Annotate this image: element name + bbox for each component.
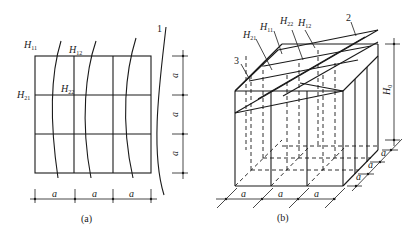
dim-a-right-3: a — [169, 151, 180, 156]
dim-a-bottom-2: a — [92, 188, 97, 199]
dim-b-bottom-1: a — [241, 188, 246, 199]
label-b-H0: H0 — [381, 85, 393, 96]
dim-b-depth-2: a — [368, 159, 373, 170]
label-b-H21: H21 — [242, 29, 256, 41]
dim-b-depth-1: a — [356, 171, 361, 182]
callout-3: 3 — [234, 55, 239, 66]
dim-a-right-2: a — [169, 112, 180, 117]
dim-a-bottom-1: a — [52, 188, 57, 199]
panel-a: H11 H12 H21 H22 1 a a a — [16, 23, 188, 225]
panel-a-right-dimension: a a a — [169, 50, 188, 179]
callout-2: 2 — [346, 12, 351, 23]
dim-b-depth-3: a — [381, 147, 386, 158]
dim-a-bottom-3: a — [129, 188, 134, 199]
dim-b-bottom-3: a — [314, 188, 319, 199]
panel-b-height-dimension: H0 — [381, 38, 400, 146]
panel-b: H21 H11 H22 H12 2 3 H0 a a a — [216, 12, 402, 224]
figure-canvas: H11 H12 H21 H22 1 a a a — [0, 0, 417, 239]
panel-b-bottom-dimension: a a a — [216, 188, 345, 208]
panel-a-bottom-dimension: a a a — [30, 188, 157, 203]
callout-1: 1 — [157, 23, 162, 34]
label-a-H11: H11 — [23, 39, 37, 51]
label-a-H22: H22 — [60, 83, 74, 95]
label-b-H11: H11 — [259, 21, 273, 33]
label-a-H12: H12 — [68, 44, 82, 56]
label-b-H12: H12 — [297, 17, 311, 29]
caption-a: (a) — [81, 213, 92, 225]
label-a-H21: H21 — [16, 89, 30, 101]
label-b-H22: H22 — [279, 15, 293, 27]
dim-b-bottom-2: a — [278, 188, 283, 199]
caption-b: (b) — [277, 212, 289, 224]
dim-a-right-1: a — [169, 73, 180, 78]
